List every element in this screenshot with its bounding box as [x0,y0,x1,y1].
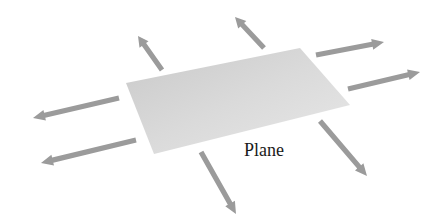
arrow-up-left-icon [138,36,164,72]
arrow-down-center-icon [199,151,236,214]
arrow-right-lower-icon [347,69,420,91]
plane-label: Plane [244,140,284,161]
arrow-up-right-icon [235,17,266,50]
arrow-left-upper-icon [33,96,120,121]
arrow-left-lower-icon [41,138,137,166]
arrow-down-right-icon [318,119,367,176]
plane-diagram [0,0,443,223]
arrow-right-upper-icon [316,39,385,58]
